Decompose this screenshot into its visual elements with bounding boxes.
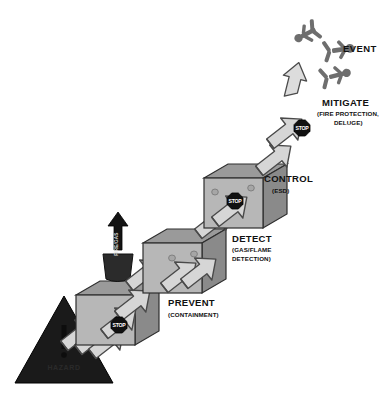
stop-label: STOP	[295, 125, 309, 131]
prevent-stop-sign[interactable]: STOP	[111, 317, 127, 333]
mitigate-stop-sign[interactable]: STOP	[294, 120, 310, 136]
control-stop-sign[interactable]: STOP	[227, 193, 243, 209]
detect-hole-1	[169, 255, 176, 261]
detect-label-group: DETECT (GAS/FLAME DETECTION)	[232, 233, 272, 262]
detect-sublabel-1: (GAS/FLAME	[232, 246, 272, 253]
hazard-exclamation-dot	[61, 352, 67, 358]
prevent-label: PREVENT	[168, 297, 215, 308]
mitigate-label: MITIGATE	[322, 97, 369, 108]
detect-hole-2	[191, 251, 198, 257]
detector-label: FIRE/GAS	[114, 232, 119, 255]
hazard-barrier-diagram: HAZARD STOP PREVENT (CONTAINMENT)	[0, 0, 390, 399]
control-label: CONTROL	[264, 173, 313, 184]
stop-label: STOP	[228, 198, 242, 204]
mitigate-sublabel-1: (FIRE PROTECTION,	[317, 110, 379, 117]
detect-sublabel-2: DETECTION)	[232, 255, 271, 262]
stop-label: STOP	[112, 322, 126, 328]
control-sublabel: (ESD)	[272, 187, 289, 194]
prevent-sublabel: (CONTAINMENT)	[168, 311, 219, 318]
diagram-canvas: HAZARD STOP PREVENT (CONTAINMENT)	[0, 0, 390, 399]
control-hole-1	[212, 189, 219, 195]
hazard-label: HAZARD	[47, 364, 80, 371]
mitigate-sublabel-2: DELUGE)	[334, 119, 363, 126]
detector-body	[103, 254, 133, 282]
prevent-label-group: PREVENT (CONTAINMENT)	[168, 297, 219, 318]
control-hole-2	[248, 185, 255, 191]
event-label: EVENT	[343, 43, 377, 54]
detect-label: DETECT	[232, 233, 272, 244]
